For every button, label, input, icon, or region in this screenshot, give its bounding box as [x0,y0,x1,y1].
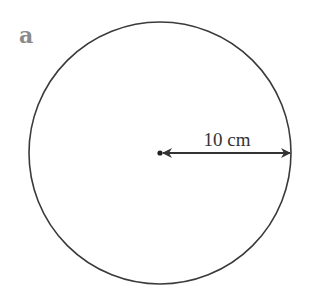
radius-label: 10 cm [204,129,251,150]
circle-diagram: 10 cm [0,0,310,299]
center-point [157,150,162,155]
